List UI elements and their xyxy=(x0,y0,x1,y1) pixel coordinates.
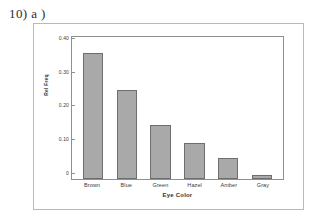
y-axis-tick: 0.40 xyxy=(59,35,72,41)
bar xyxy=(184,143,204,180)
bar-series xyxy=(72,37,283,179)
bar xyxy=(117,90,137,179)
y-axis-tick: 0.20 xyxy=(59,102,72,108)
figure-frame: Rel Freq 0.400.300.200.100 BrownBlueGree… xyxy=(33,23,304,210)
x-axis-tick-labels: BrownBlueGreenHazelAmberGray xyxy=(71,182,284,188)
bar xyxy=(218,158,238,179)
x-axis-tick-label: Green xyxy=(143,182,177,188)
question-label: 10) a ) xyxy=(9,6,46,22)
x-axis-title: Eye Color xyxy=(71,192,284,198)
x-axis-tick-label: Gray xyxy=(246,182,280,188)
bar-slot xyxy=(177,37,211,179)
bar xyxy=(83,53,103,179)
y-axis-title: Rel Freq xyxy=(43,55,49,115)
bar-slot xyxy=(76,37,110,179)
bar-slot xyxy=(245,37,279,179)
bar xyxy=(150,125,170,179)
plot-area: 0.400.300.200.100 xyxy=(71,36,284,180)
x-axis-tick-label: Blue xyxy=(109,182,143,188)
x-axis-tick-label: Amber xyxy=(212,182,246,188)
bar-chart: Rel Freq 0.400.300.200.100 BrownBlueGree… xyxy=(34,24,305,211)
bar-slot xyxy=(211,37,245,179)
bar-slot xyxy=(110,37,144,179)
x-axis-tick-label: Hazel xyxy=(178,182,212,188)
bar-slot xyxy=(144,37,178,179)
x-axis-tick-label: Brown xyxy=(75,182,109,188)
y-axis-tick: 0.30 xyxy=(59,69,72,75)
y-axis-tick: 0.10 xyxy=(59,136,72,142)
bar xyxy=(252,175,272,179)
